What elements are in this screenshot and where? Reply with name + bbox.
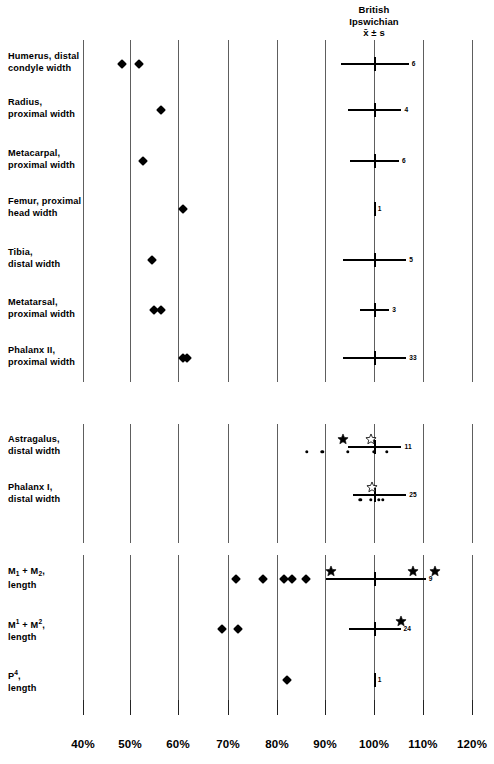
data-marker-dot [346,450,349,453]
gridline-120% [472,555,473,712]
gridline-60% [178,40,179,382]
axis-tick-120% [472,700,473,715]
error-bar-center-tick-3 [374,154,376,168]
row-label-9: Phalanx I, distal width [8,482,112,505]
sample-size-1: 6 [412,60,416,67]
error-bar-center-tick-1 [374,57,376,71]
row-label-11: M1 + M2,length [8,616,112,643]
sample-size-2: 4 [404,106,408,113]
data-marker-diamond [156,305,166,315]
data-marker-filled-star [407,566,418,577]
row-label-8: Astragalus, distal width [8,434,112,457]
sample-size-12: 1 [378,676,382,683]
row-label-1: Humerus, distal condyle width [8,51,112,74]
sample-size-6: 3 [392,306,396,313]
data-marker-diamond [231,574,241,584]
sample-size-3: 6 [402,157,406,164]
data-marker-diamond [287,574,297,584]
data-marker-diamond [117,59,127,69]
data-marker-diamond [217,624,227,634]
row-label-3: Metacarpal, proximal width [8,148,112,171]
row-label-6: Metatarsal, proximal width [8,297,112,320]
row-label-10: M1 + M2,length [8,566,112,591]
row-label-5: Tibia, distal width [8,247,112,270]
header-line-2: Ipswichian [304,16,444,28]
gridline-90% [325,424,326,543]
header-line-1: British [304,4,444,16]
gridline-80% [277,40,278,382]
data-marker-open-star [365,434,376,445]
error-bar-9 [353,494,406,496]
data-marker-filled-star [338,434,349,445]
error-bar-center-tick-10 [374,572,376,586]
error-bar-center-tick-7 [374,351,376,365]
data-marker-open-star [366,482,377,493]
sample-size-5: 5 [409,256,413,263]
data-marker-dot [305,450,308,453]
data-marker-diamond [178,204,188,214]
error-bar-center-tick-11 [374,622,376,636]
sample-size-4: 1 [378,205,382,212]
gridline-120% [472,40,473,382]
sample-size-9: 25 [409,491,417,498]
sample-size-7: 33 [409,354,417,361]
row-label-4: Femur, proximal head width [8,196,112,219]
gridline-60% [178,555,179,712]
chart-header: British Ipswichian x̄ ± s [304,4,444,39]
data-marker-diamond [301,574,311,584]
error-bar-center-tick-4 [374,202,376,216]
gridline-110% [423,424,424,543]
gridline-70% [228,424,229,543]
data-marker-diamond [258,574,268,584]
axis-tick-70% [228,700,229,715]
row-label-12: P4,length [8,667,112,694]
gridline-120% [472,424,473,543]
axis-tick-50% [130,700,131,715]
gridline-70% [228,40,229,382]
data-marker-filled-star [325,566,336,577]
gridline-80% [277,424,278,543]
axis-tick-100% [374,700,375,715]
data-marker-diamond [134,59,144,69]
gridline-80% [277,555,278,712]
sample-size-8: 11 [404,443,411,450]
axis-tick-90% [325,700,326,715]
gridline-70% [228,555,229,712]
error-bar-center-tick-12 [374,673,376,687]
gridline-60% [178,424,179,543]
data-marker-dot [369,498,372,501]
data-marker-diamond [138,156,148,166]
gridline-50% [130,555,131,712]
error-bar-10 [326,578,426,580]
axis-tick-80% [277,700,278,715]
data-marker-diamond [282,675,292,685]
error-bar-center-tick-5 [374,253,376,267]
gridline-90% [325,40,326,382]
data-marker-dot [377,498,380,501]
gridline-110% [423,40,424,382]
data-marker-diamond [156,105,166,115]
data-marker-diamond [233,624,243,634]
data-marker-dot [321,450,324,453]
data-marker-dot [358,498,361,501]
row-label-2: Radius, proximal width [8,97,112,120]
axis-tick-60% [178,700,179,715]
data-marker-dot [385,450,388,453]
data-marker-diamond [147,255,157,265]
axis-tick-110% [423,700,424,715]
comparative-measurement-chart: British Ipswichian x̄ ± s Humerus, dista… [0,0,494,764]
axis-tick-40% [83,700,84,715]
gridline-50% [130,424,131,543]
data-marker-filled-star [395,616,406,627]
axis-tick-label-120%: 120% [442,738,494,750]
error-bar-center-tick-6 [374,303,376,317]
header-line-3: x̄ ± s [304,27,444,39]
row-label-7: Phalanx II, proximal width [8,345,112,368]
error-bar-center-tick-2 [374,103,376,117]
gridline-50% [130,40,131,382]
data-marker-filled-star [429,566,440,577]
data-marker-dot [381,498,384,501]
